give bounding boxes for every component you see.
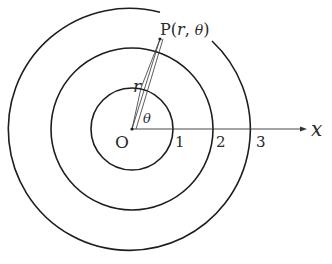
point-label-prefix: P( [160, 20, 177, 39]
axis-label-x: x [311, 117, 322, 141]
point-label: P(r, θ) [160, 20, 210, 39]
point-label-sep: , [185, 20, 195, 39]
circle-label-2: 2 [216, 133, 226, 151]
circle-label-1: 1 [175, 133, 185, 151]
x-axis-arrowhead [300, 127, 307, 132]
point-label-suffix: ) [203, 20, 209, 39]
origin-label: O [115, 132, 129, 152]
circle-label-3: 3 [256, 133, 266, 151]
angle-label: θ [143, 111, 151, 126]
radius-label: r [133, 76, 142, 96]
origin-point [130, 127, 133, 130]
polar-diagram: O x r θ 1 2 3 P(r, θ) [0, 0, 332, 264]
